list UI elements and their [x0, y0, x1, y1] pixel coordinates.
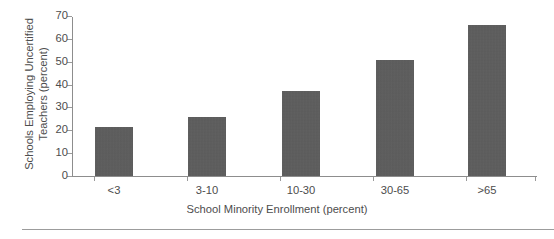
x-axis-title: School Minority Enrollment (percent)	[0, 203, 554, 215]
y-tick-label-0: 0	[62, 169, 68, 181]
y-axis-line	[72, 17, 73, 177]
bar-gt-65[interactable]	[468, 25, 506, 176]
bar-30-65[interactable]	[376, 60, 414, 176]
bar-chart-figure: Schools Employing Uncertified Teachers (…	[0, 0, 554, 239]
footer-divider	[22, 229, 554, 230]
x-tick-mark	[94, 177, 95, 181]
x-axis-line	[72, 176, 537, 177]
x-tick-mark	[187, 177, 188, 181]
y-tick-label-20: 20	[56, 123, 68, 135]
bar-3-10[interactable]	[188, 117, 226, 176]
x-tick-mark	[466, 177, 467, 181]
plot-area: 0 10 20 30 40 50 60 70	[72, 17, 537, 177]
bar-lt-3[interactable]	[95, 127, 133, 176]
x-category-label-10-30: 10-30	[287, 184, 316, 196]
x-tick-mark	[535, 177, 536, 181]
y-axis-title-line-1: Schools Employing Uncertified	[23, 18, 37, 170]
y-axis-title-line-2: Teachers (percent)	[36, 18, 50, 170]
y-tick-label-70: 70	[56, 9, 68, 21]
bar-10-30[interactable]	[282, 91, 320, 176]
x-tick-mark	[280, 177, 281, 181]
y-tick-label-40: 40	[56, 78, 68, 90]
x-category-label-gt-65: >65	[478, 184, 497, 196]
y-tick-label-50: 50	[56, 55, 68, 67]
y-tick-label-30: 30	[56, 100, 68, 112]
x-tick-mark	[373, 177, 374, 181]
y-tick-label-10: 10	[56, 146, 68, 158]
x-category-label-3-10: 3-10	[196, 184, 218, 196]
x-category-label-lt-3: <3	[108, 184, 121, 196]
y-axis-title: Schools Employing Uncertified Teachers (…	[16, 8, 56, 180]
y-tick-label-60: 60	[56, 32, 68, 44]
x-category-label-30-65: 30-65	[381, 184, 410, 196]
